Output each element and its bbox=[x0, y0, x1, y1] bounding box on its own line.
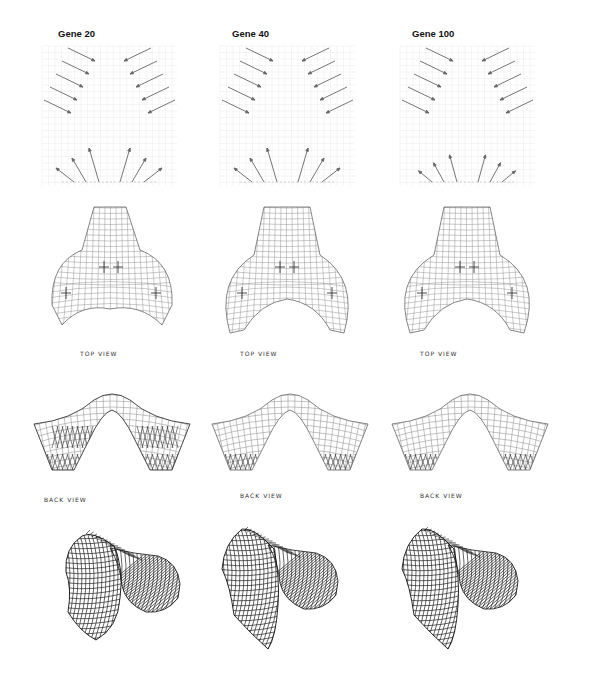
top-view-mesh bbox=[400, 205, 536, 340]
back-view-mesh bbox=[210, 392, 372, 474]
perspective-view-mesh bbox=[220, 525, 345, 660]
force-vector-diagram bbox=[220, 46, 360, 191]
back-view-label: BACK VIEW bbox=[420, 492, 463, 499]
perspective-view-mesh bbox=[62, 528, 187, 663]
column-title: Gene 40 bbox=[232, 28, 269, 39]
top-view-mesh bbox=[220, 205, 356, 340]
back-view-label: BACK VIEW bbox=[240, 492, 283, 499]
back-view-mesh bbox=[32, 392, 194, 474]
back-view-mesh bbox=[390, 392, 552, 474]
force-vector-diagram bbox=[42, 46, 182, 191]
figure-column-gene-40: Gene 40TOP VIEWBACK VIEW bbox=[220, 0, 418, 690]
top-view-mesh bbox=[44, 205, 180, 340]
force-vector-diagram bbox=[400, 46, 540, 191]
back-view-label: BACK VIEW bbox=[44, 496, 87, 503]
figure-column-gene-20: Gene 20TOP VIEWBACK VIEW bbox=[42, 0, 240, 690]
perspective-view-mesh bbox=[400, 525, 525, 660]
column-title: Gene 20 bbox=[58, 28, 95, 39]
top-view-label: TOP VIEW bbox=[80, 350, 118, 357]
figure-column-gene-100: Gene 100TOP VIEWBACK VIEW bbox=[400, 0, 595, 690]
column-title: Gene 100 bbox=[412, 28, 454, 39]
top-view-label: TOP VIEW bbox=[240, 350, 278, 357]
top-view-label: TOP VIEW bbox=[420, 350, 458, 357]
